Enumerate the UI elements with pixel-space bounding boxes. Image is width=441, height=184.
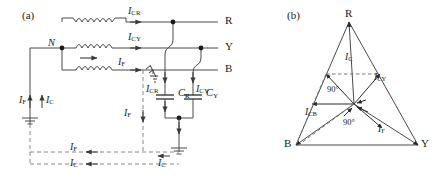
phasor-panel: [296, 22, 418, 147]
capacitor-r: [156, 95, 174, 99]
winding-y: [62, 45, 126, 49]
phasor-vertex-y: Y: [421, 138, 429, 149]
current-label-i-c-return: IC: [70, 158, 78, 169]
phasor-label-i-c: IC: [345, 53, 352, 63]
phasor-label-i-cy: ICY: [374, 73, 386, 83]
earth-return-path-upper: [30, 124, 179, 152]
terminal-label-y: Y: [225, 41, 233, 52]
current-label-i-c-neutral: IC: [46, 95, 54, 106]
current-label-i-cr-cap: ICR: [146, 84, 158, 95]
phasor-vertex-b: B: [284, 138, 291, 149]
cap-y-tap-dot: [199, 46, 204, 51]
cap-r-lead: [165, 22, 173, 95]
winding-b: [62, 48, 126, 70]
capacitor-label-cy: CY: [206, 88, 218, 100]
phasor-label-i-cb: ICB: [305, 108, 317, 118]
current-label-i-f-drop: IF: [124, 108, 131, 119]
neutral-label: N: [48, 38, 55, 49]
current-label-i-f-line: IF: [118, 57, 125, 68]
phasor-triangle: [296, 22, 418, 145]
phasor-leg-r: [349, 22, 354, 104]
current-label-i-cy-line: ICY: [128, 32, 141, 43]
phasor-angle-upper: 90°: [327, 85, 339, 94]
figure-root: (a) N R Y B ICR ICY IF ICR ICY CR CY IF …: [0, 0, 441, 184]
current-label-i-f-return: IF: [70, 142, 77, 153]
current-label-i-cr-line: ICR: [128, 6, 140, 17]
cap-r-tap-dot: [171, 20, 176, 25]
winding-r: [62, 18, 126, 22]
phasor-vertex-r: R: [345, 8, 352, 19]
terminal-label-r: R: [225, 15, 232, 26]
terminal-label-b: B: [225, 63, 232, 74]
ph-tick-a: [357, 100, 366, 103]
current-label-i-c-ground: IC: [158, 158, 166, 169]
phasor-label-i-f: IF: [378, 125, 385, 135]
phasor-angle-lower: 90°: [343, 118, 355, 127]
panel-b-tag: (b): [287, 10, 300, 21]
figure-canvas: [0, 0, 441, 184]
current-label-i-f-neutral: IF: [19, 95, 26, 106]
ph-tick-c: [344, 108, 352, 116]
earth-fault-arrester-b-phase: [146, 65, 158, 82]
neutral-node-dot: [60, 46, 65, 51]
panel-a-tag: (a): [22, 10, 34, 21]
capacitor-label-cr: CR: [178, 88, 190, 100]
